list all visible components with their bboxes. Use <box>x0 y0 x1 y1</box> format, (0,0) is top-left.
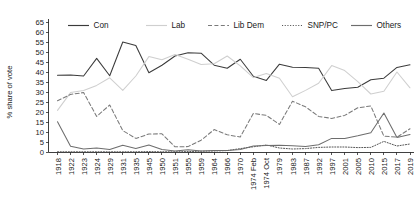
y-tick-label: 45 <box>36 58 44 67</box>
chart-container: ConLabLib DemSNP/PCOthers 05101520253035… <box>0 0 420 219</box>
legend-label-others: Others <box>377 21 402 30</box>
y-tick-label: 0 <box>40 148 44 157</box>
x-tick-label: 1950 <box>158 158 167 175</box>
y-axis: 05101520253035404550556065 <box>36 18 49 157</box>
x-tick-label: 1974 Oct <box>262 157 271 189</box>
legend-label-snp-pc: SNP/PC <box>308 21 339 30</box>
y-tick-label: 15 <box>36 118 44 127</box>
chart-legend: ConLabLib DemSNP/PCOthers <box>68 21 401 30</box>
x-tick-label: 2005 <box>354 158 363 175</box>
y-tick-label: 30 <box>36 88 44 97</box>
y-tick-label: 60 <box>36 28 44 37</box>
y-tick-label: 40 <box>36 68 44 77</box>
x-axis: 1918192219231924192919311935194519501951… <box>49 152 416 190</box>
x-tick-label: 1945 <box>145 158 154 175</box>
y-axis-title: % share of vote <box>5 66 14 119</box>
x-tick-label: 2017 <box>393 158 402 175</box>
x-tick-label: 2019 <box>406 158 415 175</box>
x-tick-label: 1979 <box>275 158 284 175</box>
x-tick-label: 1955 <box>184 158 193 175</box>
y-tick-label: 10 <box>36 128 44 137</box>
x-tick-label: 1935 <box>132 158 141 175</box>
y-tick-label: 20 <box>36 108 44 117</box>
x-tick-label: 1922 <box>67 158 76 175</box>
x-tick-label: 2001 <box>341 158 350 175</box>
x-tick-label: 1992 <box>315 158 324 175</box>
series-lines <box>58 42 411 152</box>
y-tick-label: 25 <box>36 98 44 107</box>
legend-label-con: Con <box>94 21 109 30</box>
x-tick-label: 1997 <box>328 158 337 175</box>
x-tick-label: 2010 <box>367 158 376 175</box>
x-tick-label: 2015 <box>380 158 389 175</box>
y-tick-label: 65 <box>36 18 44 27</box>
series-line-con <box>58 42 411 91</box>
vote-share-line-chart: ConLabLib DemSNP/PCOthers 05101520253035… <box>0 0 420 219</box>
x-tick-label: 1964 <box>210 158 219 175</box>
x-tick-label: 1924 <box>93 158 102 175</box>
series-line-others <box>58 113 411 151</box>
legend-label-lab: Lab <box>172 21 186 30</box>
series-line-lib-dem <box>58 93 411 147</box>
y-tick-label: 55 <box>36 38 44 47</box>
x-tick-label: 1923 <box>80 158 89 175</box>
x-tick-label: 1959 <box>197 158 206 175</box>
x-tick-label: 1983 <box>289 158 298 175</box>
x-tick-label: 1987 <box>302 158 311 175</box>
x-tick-label: 1929 <box>106 158 115 175</box>
x-tick-label: 1931 <box>119 158 128 175</box>
x-tick-label: 1974 Feb <box>249 158 258 190</box>
x-tick-label: 1966 <box>223 158 232 175</box>
x-tick-label: 1970 <box>236 158 245 175</box>
legend-label-lib-dem: Lib Dem <box>234 21 265 30</box>
y-tick-label: 50 <box>36 48 44 57</box>
x-tick-label: 1918 <box>54 158 63 175</box>
y-tick-label: 5 <box>40 138 44 147</box>
y-tick-label: 35 <box>36 78 44 87</box>
x-tick-label: 1951 <box>171 158 180 175</box>
series-line-lab <box>58 54 411 110</box>
